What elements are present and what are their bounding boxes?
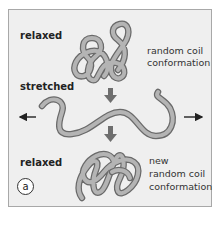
stage-1-description-line-1: random coil (147, 45, 203, 57)
stage-3-description-line-3: conformation (149, 181, 212, 193)
stage-1-state-label: relaxed (20, 30, 62, 42)
relaxed-coil-top (74, 24, 128, 81)
stage-1-description-line-2: conformation (147, 57, 210, 69)
stage-3-description-line-2: random coil (149, 168, 205, 180)
stage-2-state-label: stretched (20, 81, 74, 93)
stage-3-state-label: relaxed (20, 157, 62, 169)
stage-3-description-line-1: new (149, 155, 169, 167)
down-arrow-icon (104, 88, 117, 103)
relaxed-coil-bottom (79, 154, 139, 198)
down-arrow-icon (104, 126, 117, 142)
panel-label: a (17, 178, 34, 195)
